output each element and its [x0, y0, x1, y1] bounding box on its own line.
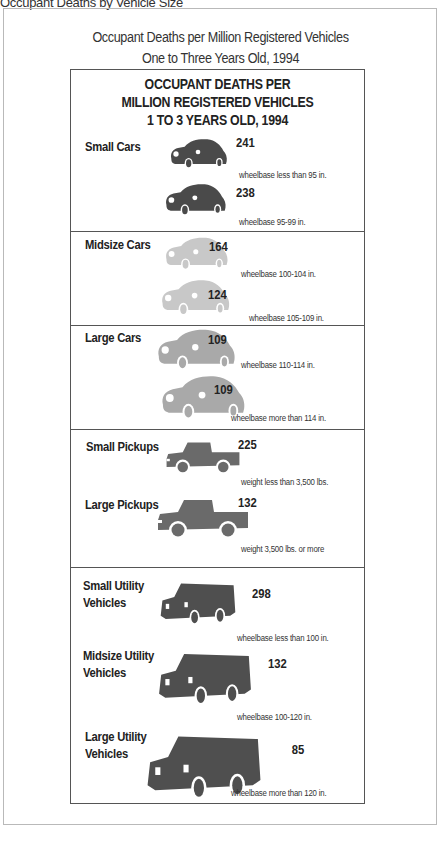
utility-icon-small [159, 580, 237, 626]
value-large-cars-2: 109 [214, 383, 233, 397]
chart-panel: OCCUPANT DEATHS PER MILLION REGISTERED V… [70, 69, 365, 804]
note-midsize-utility: wheelbase 100-120 in. [237, 712, 312, 722]
note-small-utility: wheelbase less than 100 in. [237, 633, 329, 643]
note-midsize-cars-2: wheelbase 105-109 in. [249, 313, 324, 323]
note-large-pickups: weight 3,500 lbs. or more [241, 544, 324, 554]
note-large-cars-1: wheelbase 110-114 in. [241, 360, 315, 370]
section-divider [71, 325, 364, 326]
note-small-pickups: weight less than 3,500 lbs. [241, 477, 328, 487]
panel-heading-line3: 1 TO 3 YEARS OLD, 1994 [89, 110, 347, 131]
value-large-utility: 85 [292, 743, 305, 757]
note-small-cars-2: wheelbase 95-99 in. [239, 217, 305, 227]
label-large-utility: Large UtilityVehicles [85, 729, 147, 763]
value-midsize-utility: 132 [268, 657, 287, 671]
chart-title-line2: One to Three Years Old, 1994 [22, 50, 419, 66]
label-midsize-utility: Midsize UtilityVehicles [83, 648, 154, 682]
car-icon-small-1 [170, 138, 230, 170]
section-divider [71, 567, 364, 568]
section-divider [71, 429, 364, 430]
label-midsize-cars: Midsize Cars [85, 237, 151, 254]
value-large-cars-1: 109 [208, 333, 227, 347]
value-large-pickups: 132 [238, 496, 257, 510]
value-small-pickups: 225 [238, 438, 257, 452]
value-small-cars-1: 241 [236, 136, 255, 150]
label-small-cars: Small Cars [85, 139, 140, 156]
note-large-cars-2: wheelbase more than 114 in. [231, 413, 326, 423]
label-large-cars: Large Cars [85, 330, 141, 347]
note-large-utility: wheelbase more than 120 in. [231, 788, 326, 798]
label-large-pickups: Large Pickups [85, 497, 158, 514]
label-small-pickups: Small Pickups [86, 439, 159, 456]
value-midsize-cars-1: 164 [209, 240, 228, 254]
car-icon-small-2 [165, 183, 229, 217]
label-small-utility: Small UtilityVehicles [83, 578, 144, 612]
pickup-icon-small [161, 441, 245, 475]
value-small-cars-2: 238 [236, 186, 255, 200]
value-midsize-cars-2: 124 [208, 288, 227, 302]
note-midsize-cars-1: wheelbase 100-104 in. [241, 269, 316, 279]
chart-title-line1: Occupant Deaths per Million Registered V… [22, 29, 419, 45]
section-divider [71, 231, 364, 232]
note-small-cars-1: wheelbase less than 95 in. [239, 170, 326, 180]
utility-icon-midsize [157, 650, 253, 706]
value-small-utility: 298 [252, 587, 271, 601]
